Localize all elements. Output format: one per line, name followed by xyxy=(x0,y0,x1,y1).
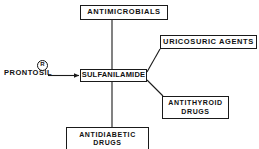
registered-trademark-letter: R xyxy=(40,61,44,67)
connector-sulfanilamide-to-antithyroid xyxy=(147,80,163,96)
node-sulfanilamide[interactable]: SULFANILAMIDE xyxy=(80,69,147,82)
node-antimicrobials-label: ANTIMICROBIALS xyxy=(87,8,160,17)
node-antithyroid-drugs[interactable]: ANTITHYROID DRUGS xyxy=(162,96,229,119)
diagram-canvas: PRONTOSIL R SULFANILAMIDE ANTIMICROBIALS… xyxy=(0,0,259,149)
node-sulfanilamide-label: SULFANILAMIDE xyxy=(82,71,145,80)
node-uricosuric-agents[interactable]: URICOSURIC AGENTS xyxy=(160,35,257,49)
connector-sulfanilamide-to-uricosuric xyxy=(147,49,160,72)
node-uricosuric-agents-label: URICOSURIC AGENTS xyxy=(163,38,254,47)
node-antidiabetic-drugs[interactable]: ANTIDIABETIC DRUGS xyxy=(66,127,149,149)
node-antidiabetic-drugs-label-line2: DRUGS xyxy=(93,139,121,147)
node-antithyroid-drugs-label-line1: ANTITHYROID xyxy=(168,99,222,107)
node-antidiabetic-drugs-label-line1: ANTIDIABETIC xyxy=(79,131,136,139)
node-antithyroid-drugs-label-line2: DRUGS xyxy=(181,108,209,116)
node-antimicrobials[interactable]: ANTIMICROBIALS xyxy=(80,5,168,20)
registered-trademark-icon: R xyxy=(37,60,48,71)
